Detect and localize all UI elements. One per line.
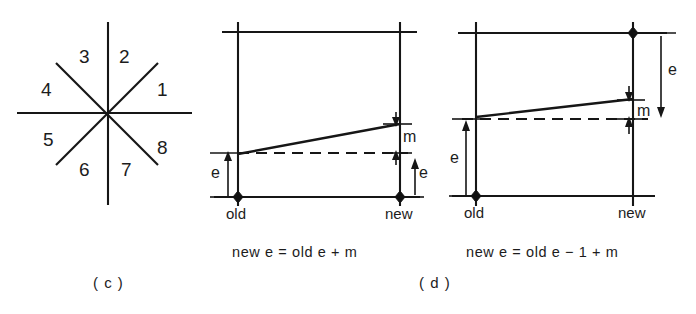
panel-d-label: ( d ) [419, 275, 451, 290]
right-diagram-old-pixel [471, 190, 481, 202]
figure-vector-layer [0, 0, 696, 314]
left-diagram-e-label: e [211, 165, 220, 181]
left-diagram-new-label: new [385, 206, 413, 221]
octant-star-group [17, 22, 192, 205]
panel-c-label: ( c ) [93, 275, 124, 290]
octant-label-6: 6 [79, 160, 90, 179]
octant-label-4: 4 [41, 80, 52, 99]
left-diagram-old-label: old [226, 206, 246, 221]
right-diagram-e2-arrow-head [657, 107, 665, 118]
right-diagram-old-label: old [464, 205, 484, 220]
octant-label-1: 1 [157, 80, 168, 99]
left-diagram-m-label: m [403, 129, 416, 145]
left-diagram-e2-label: e [419, 165, 428, 181]
panel-d-left-group [210, 22, 424, 206]
octant-label-7: 7 [121, 160, 132, 179]
octant-label-8: 8 [157, 138, 168, 157]
right-diagram-equation: new e = old e − 1 + m [466, 245, 618, 260]
left-diagram-m-arrow-head-up [392, 150, 400, 160]
octant-label-3: 3 [79, 47, 90, 66]
left-diagram-ideal-line [238, 124, 400, 154]
figure-canvas: 1 2 3 4 5 6 7 8 ( c ) e m e old new new … [0, 0, 696, 314]
left-diagram-old-pixel [233, 191, 243, 203]
right-diagram-new-label: new [618, 205, 646, 220]
right-diagram-e-arrow-head [462, 120, 470, 131]
right-diagram-e-label: e [450, 150, 459, 166]
right-diagram-m-label: m [637, 103, 650, 119]
right-diagram-ideal-line [476, 99, 633, 117]
octant-label-2: 2 [119, 47, 130, 66]
left-diagram-e2-arrow-head [411, 158, 419, 169]
right-diagram-e2-label: e [668, 62, 677, 78]
left-diagram-equation: new e = old e + m [232, 245, 357, 260]
right-diagram-m-arrow-head-up [625, 116, 633, 127]
octant-label-5: 5 [43, 130, 54, 149]
